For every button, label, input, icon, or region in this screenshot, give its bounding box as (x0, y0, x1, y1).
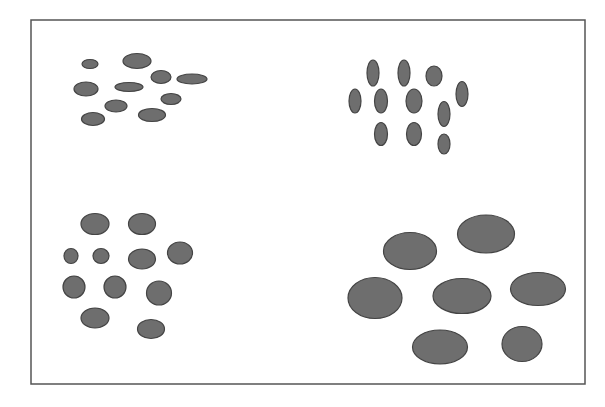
particle-ellipse (81, 308, 109, 328)
particle-ellipse (63, 276, 85, 298)
particle-ellipse (93, 249, 109, 264)
particle-ellipse (406, 89, 422, 113)
particle-ellipse (104, 276, 126, 298)
particle-ellipse (115, 83, 143, 92)
particle-ellipse (138, 320, 165, 339)
particle-ellipse (177, 74, 207, 84)
particle-ellipse (438, 102, 450, 127)
particle-ellipse (367, 60, 379, 86)
particle-ellipse (384, 233, 437, 270)
particle-ellipse (129, 214, 156, 235)
particle-ellipse (511, 273, 566, 306)
diagram-frame (31, 20, 585, 384)
particle-ellipse (161, 94, 181, 105)
particle-ellipse (82, 60, 98, 69)
particle-ellipse (426, 66, 442, 86)
particle-ellipse (433, 279, 491, 314)
particle-ellipse (129, 249, 156, 269)
particle-ellipse (375, 89, 388, 113)
diagram-canvas (0, 0, 605, 407)
particle-ellipse (151, 71, 171, 84)
particle-ellipse (147, 281, 172, 305)
particle-ellipse (348, 278, 402, 319)
particle-ellipse (81, 214, 109, 235)
particle-ellipse (413, 330, 468, 364)
particle-diagram (0, 0, 605, 407)
particle-ellipse (105, 100, 127, 112)
particle-ellipse (349, 89, 361, 113)
particle-ellipse (458, 215, 515, 253)
particle-ellipse (139, 109, 166, 122)
particle-ellipse (375, 123, 388, 146)
particle-ellipse (64, 249, 78, 264)
particle-ellipse (502, 327, 542, 362)
particle-ellipse (74, 82, 98, 96)
particle-ellipse (456, 82, 468, 107)
particle-ellipse (123, 54, 151, 69)
particle-ellipse (438, 134, 450, 154)
particle-ellipse (82, 113, 105, 126)
particle-ellipse (407, 123, 422, 146)
particle-ellipse (398, 60, 410, 86)
particle-ellipse (168, 242, 193, 264)
